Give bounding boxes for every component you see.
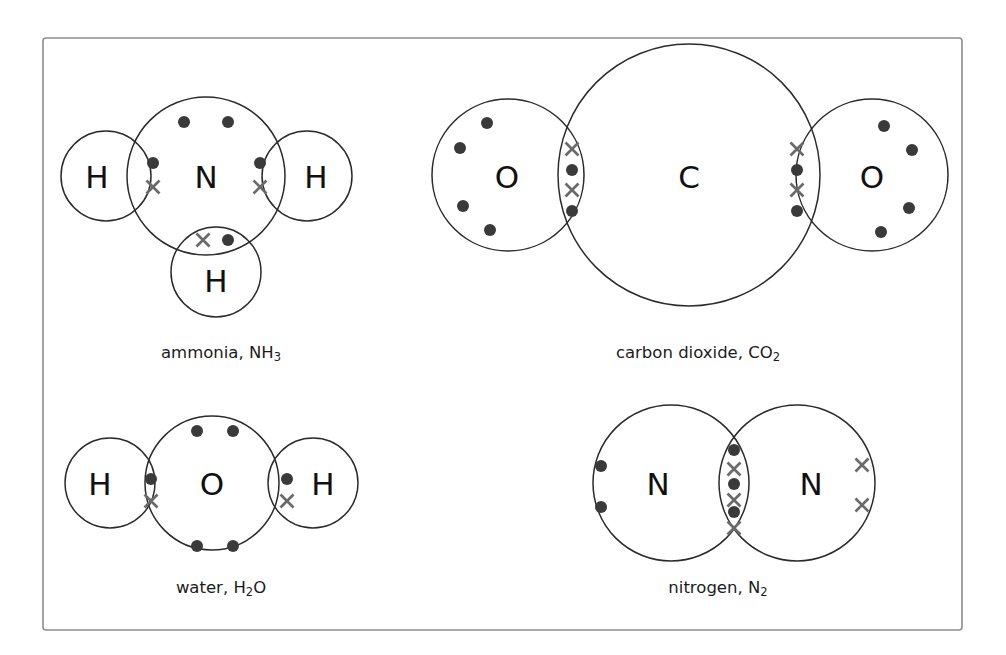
atom-symbol-h: H (311, 466, 334, 502)
atom-symbol-h: H (88, 466, 111, 502)
atom-symbol-h: H (304, 159, 327, 195)
electron-dot (145, 473, 157, 485)
atom-symbol-h: H (85, 159, 108, 195)
atom-symbol-n: N (194, 159, 217, 195)
electron-dot (791, 164, 803, 176)
lone-pair-electron (222, 116, 234, 128)
lone-pair-electron (227, 540, 239, 552)
atom-symbol-n: N (646, 466, 669, 502)
lone-pair-electron (595, 501, 607, 513)
electron-dot (227, 425, 239, 437)
electron-dot (903, 202, 915, 214)
electron-dot (906, 144, 918, 156)
lone-pair-electron (227, 425, 239, 437)
lone-pair-electron (191, 540, 203, 552)
electron-dot (147, 157, 159, 169)
electron-dot (454, 142, 466, 154)
electron-dot (457, 200, 469, 212)
molecule-caption-water: water, H2O (176, 578, 266, 600)
electron-dot (222, 116, 234, 128)
electron-dot (566, 164, 578, 176)
lone-pair-electron (875, 226, 887, 238)
electron-dot (728, 444, 740, 456)
atom-symbol-o: O (200, 466, 224, 502)
electron-dot (227, 540, 239, 552)
atom-symbol-h: H (204, 263, 227, 299)
lone-pair-electron (457, 200, 469, 212)
lone-pair-electron (178, 116, 190, 128)
lone-pair-electron (481, 117, 493, 129)
electron-dot (878, 120, 890, 132)
lone-pair-electron (903, 202, 915, 214)
electron-dot (222, 234, 234, 246)
electron-dot (595, 460, 607, 472)
lone-pair-electron (878, 120, 890, 132)
atom-symbol-o: O (495, 159, 519, 195)
atom-symbol-n: N (799, 466, 822, 502)
lone-pair-electron (906, 144, 918, 156)
electron-dot (191, 540, 203, 552)
lone-pair-electron (595, 460, 607, 472)
electron-dot (791, 205, 803, 217)
electron-dot (728, 506, 740, 518)
lone-pair-electron (454, 142, 466, 154)
molecule-caption-carbon-dioxide: carbon dioxide, CO2 (616, 343, 780, 365)
electron-dot (178, 116, 190, 128)
electron-dot (281, 473, 293, 485)
diagram-canvas: NHHHammonia, NH3COOcarbon dioxide, CO2OH… (0, 0, 1006, 655)
lone-pair-electron (484, 224, 496, 236)
lone-pair-electron (191, 425, 203, 437)
electron-dot (875, 226, 887, 238)
atom-symbol-c: C (678, 159, 700, 195)
electron-dot (254, 157, 266, 169)
molecule-diagram-figure: NHHHammonia, NH3COOcarbon dioxide, CO2OH… (0, 0, 1006, 655)
atom-symbol-o: O (860, 159, 884, 195)
electron-dot (566, 205, 578, 217)
molecule-caption-nitrogen: nitrogen, N2 (668, 578, 767, 600)
electron-dot (728, 478, 740, 490)
electron-dot (595, 501, 607, 513)
molecule-caption-ammonia: ammonia, NH3 (161, 343, 281, 365)
electron-dot (484, 224, 496, 236)
electron-dot (191, 425, 203, 437)
electron-dot (481, 117, 493, 129)
